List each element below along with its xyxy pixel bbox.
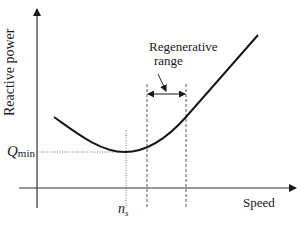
ns-main: n <box>118 201 125 216</box>
qmin-main: Q <box>7 143 18 159</box>
ns-sub: s <box>125 208 129 218</box>
regenerative-range-label: Regenerative range <box>149 40 218 68</box>
qmin-sub: min <box>18 147 35 159</box>
reactive-power-diagram: Reactive power Speed Qmin ns Regenerativ… <box>0 0 304 227</box>
regen-label-line2: range <box>149 54 218 68</box>
ns-label: ns <box>118 201 129 218</box>
x-axis-label: Speed <box>243 195 275 211</box>
diagram-canvas <box>0 0 304 227</box>
regen-label-line1: Regenerative <box>149 40 218 54</box>
qmin-label: Qmin <box>7 143 35 160</box>
y-axis-label: Reactive power <box>2 29 18 116</box>
regen-pointer-arrow <box>158 74 166 91</box>
